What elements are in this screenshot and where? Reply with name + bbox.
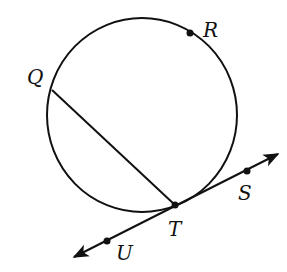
diagram-canvas: Q R T S U xyxy=(0,0,287,272)
point-U-dot xyxy=(104,238,111,245)
geometry-diagram: Q R T S U xyxy=(0,0,287,272)
label-R: R xyxy=(202,18,218,42)
circle xyxy=(47,18,237,212)
label-T: T xyxy=(168,217,183,241)
label-U: U xyxy=(116,241,134,265)
point-R-dot xyxy=(187,30,194,37)
label-Q: Q xyxy=(27,65,43,89)
point-T-dot xyxy=(172,202,179,209)
point-S-dot xyxy=(244,168,251,175)
chord-QT xyxy=(52,90,175,205)
label-S: S xyxy=(238,181,252,205)
